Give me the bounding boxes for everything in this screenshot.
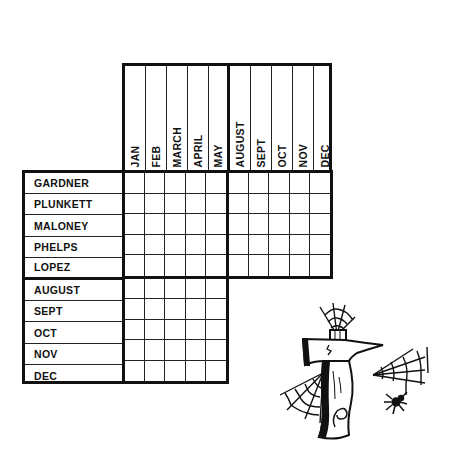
grid-cell[interactable] — [125, 340, 145, 360]
grid-cell[interactable] — [310, 255, 330, 276]
grid-cell[interactable] — [206, 279, 226, 299]
grid-cell[interactable] — [186, 214, 206, 235]
grid-cell[interactable] — [186, 235, 206, 256]
column-header-sept: SEPT — [251, 66, 272, 173]
grid-cell[interactable] — [186, 194, 206, 215]
grid-cell[interactable] — [125, 194, 145, 215]
grid-cell[interactable] — [206, 255, 226, 276]
grid-cell[interactable] — [229, 173, 249, 194]
grid-cell[interactable] — [125, 320, 145, 340]
grid-cell[interactable] — [186, 361, 206, 381]
grid-cell[interactable] — [206, 320, 226, 340]
grid-cell[interactable] — [249, 255, 269, 276]
grid-cell[interactable] — [206, 173, 226, 194]
grid-cell[interactable] — [125, 279, 145, 299]
grid-cell[interactable] — [165, 235, 185, 256]
grid-cell[interactable] — [290, 235, 310, 256]
grid-cell[interactable] — [269, 235, 289, 256]
grid-cell[interactable] — [206, 361, 226, 381]
grid-cell[interactable] — [165, 194, 185, 215]
grid-cell[interactable] — [165, 173, 185, 194]
row-label: PHELPS — [34, 242, 78, 253]
row-header-august: AUGUST — [25, 280, 122, 301]
grid-cell[interactable] — [145, 214, 165, 235]
logic-grid-puzzle: JAN FEB MARCH APRIL MAY AUGUST SEPT OCT … — [0, 0, 450, 453]
grid-cell[interactable] — [186, 255, 206, 276]
row-label: GARDNER — [34, 178, 89, 189]
grid-cell[interactable] — [229, 255, 249, 276]
grid-cell[interactable] — [269, 214, 289, 235]
grid-block-late-vs-early-months — [122, 276, 229, 384]
grid-cell[interactable] — [206, 194, 226, 215]
grid-cell[interactable] — [269, 255, 289, 276]
grid-cell[interactable] — [145, 320, 165, 340]
row-header-oct: OCT — [25, 323, 122, 344]
grid-cell[interactable] — [125, 235, 145, 256]
grid-cell[interactable] — [206, 340, 226, 360]
grid-cell[interactable] — [125, 255, 145, 276]
grid-cell[interactable] — [290, 194, 310, 215]
grid-cell[interactable] — [290, 173, 310, 194]
grid-cell[interactable] — [145, 299, 165, 319]
grid-cell[interactable] — [206, 299, 226, 319]
grid-cell[interactable] — [310, 235, 330, 256]
grid-cell[interactable] — [145, 279, 165, 299]
grid-cell[interactable] — [145, 340, 165, 360]
row-header-plunkett: PLUNKETT — [25, 194, 122, 215]
grid-cell[interactable] — [186, 279, 206, 299]
grid-cell[interactable] — [249, 194, 269, 215]
row-label: AUGUST — [34, 285, 80, 296]
column-header-feb: FEB — [146, 66, 167, 173]
grid-cell[interactable] — [229, 214, 249, 235]
grid-cell[interactable] — [290, 214, 310, 235]
row-label: DEC — [34, 371, 57, 382]
grid-cell[interactable] — [206, 235, 226, 256]
column-label: AUGUST — [235, 121, 246, 167]
grid-cell[interactable] — [310, 194, 330, 215]
grid-cell[interactable] — [165, 255, 185, 276]
grid-cell[interactable] — [186, 340, 206, 360]
column-label: MAY — [213, 144, 224, 167]
column-label: OCT — [277, 144, 288, 167]
row-label: MALONEY — [34, 220, 89, 231]
column-header-jan: JAN — [125, 66, 146, 173]
grid-cell[interactable] — [206, 214, 226, 235]
row-header-maloney: MALONEY — [25, 216, 122, 237]
grid-cell[interactable] — [229, 194, 249, 215]
grid-cell[interactable] — [165, 279, 185, 299]
grid-cell[interactable] — [165, 361, 185, 381]
column-header-may: MAY — [209, 66, 230, 173]
grid-cell[interactable] — [145, 235, 165, 256]
grid-cell[interactable] — [165, 340, 185, 360]
grid-cell[interactable] — [145, 173, 165, 194]
grid-cell[interactable] — [165, 214, 185, 235]
grid-cell[interactable] — [165, 320, 185, 340]
grid-cell[interactable] — [186, 299, 206, 319]
grid-cell[interactable] — [249, 235, 269, 256]
row-header-phelps: PHELPS — [25, 237, 122, 258]
grid-cell[interactable] — [269, 194, 289, 215]
grid-cell[interactable] — [186, 173, 206, 194]
cobweb-icon — [373, 347, 428, 395]
grid-cell[interactable] — [145, 194, 165, 215]
grid-cell[interactable] — [269, 173, 289, 194]
grid-cell[interactable] — [249, 173, 269, 194]
row-header-nov: NOV — [25, 344, 122, 365]
grid-cell[interactable] — [125, 361, 145, 381]
grid-cell[interactable] — [145, 255, 165, 276]
grid-cell[interactable] — [249, 214, 269, 235]
grid-cell[interactable] — [290, 255, 310, 276]
grid-cell[interactable] — [125, 299, 145, 319]
grid-cell[interactable] — [165, 299, 185, 319]
column-label: FEB — [151, 145, 162, 167]
grid-cell[interactable] — [229, 235, 249, 256]
grid-block-names-vs-early-months — [122, 170, 229, 279]
grid-cell[interactable] — [125, 173, 145, 194]
grid-cell[interactable] — [125, 214, 145, 235]
grid-cell[interactable] — [186, 320, 206, 340]
column-header-nov: NOV — [293, 66, 314, 173]
row-label: SEPT — [34, 306, 63, 317]
grid-cell[interactable] — [145, 361, 165, 381]
grid-cell[interactable] — [310, 214, 330, 235]
grid-cell[interactable] — [310, 173, 330, 194]
